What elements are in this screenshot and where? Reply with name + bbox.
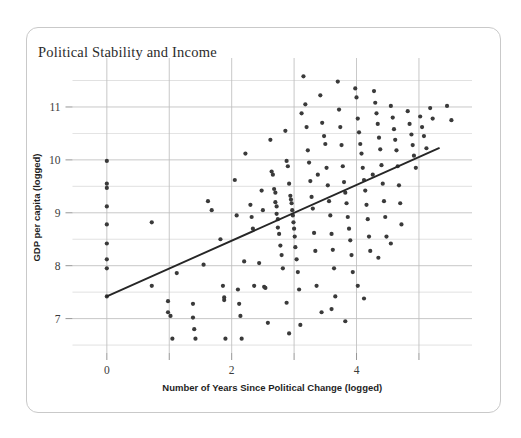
watermark (408, 168, 500, 208)
chart-title: Political Stability and Income (38, 44, 217, 61)
screenshot-root: Political Stability and Income 024789101… (0, 0, 521, 438)
chart-card (26, 27, 501, 413)
